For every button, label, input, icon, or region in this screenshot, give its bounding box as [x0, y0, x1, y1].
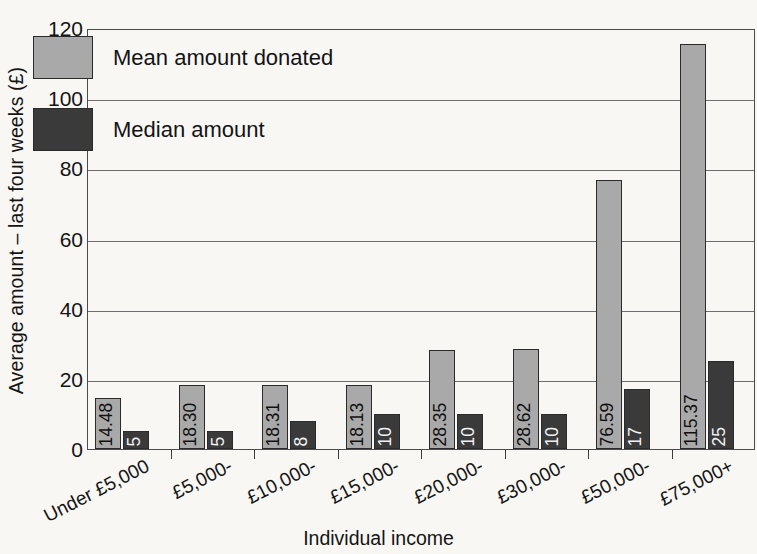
- bar-value-label: 18.31: [265, 402, 283, 446]
- x-category-label: £5,000-: [169, 455, 236, 504]
- bar-value-label: 10: [376, 427, 394, 446]
- bar-mean[interactable]: 18.31: [262, 385, 288, 449]
- bar-mean[interactable]: 28.35: [429, 350, 455, 449]
- bar-value-label: 76.59: [599, 402, 617, 446]
- y-axis-title: Average amount – last four weeks (£): [0, 0, 34, 460]
- bar-median[interactable]: 10: [541, 414, 567, 449]
- legend-item[interactable]: Median amount: [33, 108, 265, 151]
- bar-value-label: 28.62: [515, 402, 533, 446]
- bar-value-label: 10: [543, 427, 561, 446]
- bar-value-label: 28.35: [432, 402, 450, 446]
- bar-mean[interactable]: 18.30: [179, 385, 205, 449]
- bar-value-label: 18.13: [348, 402, 366, 446]
- bar-value-label: 8: [293, 436, 311, 446]
- legend-label: Mean amount donated: [113, 45, 333, 71]
- bar-median[interactable]: 25: [708, 361, 734, 449]
- gridline: [88, 170, 754, 171]
- bar-value-label: 25: [710, 427, 728, 446]
- x-category-label: £15,000-: [326, 455, 403, 509]
- bar-mean[interactable]: 115.37: [680, 44, 706, 449]
- bar-value-label: 18.30: [181, 402, 199, 446]
- x-category-label: £50,000-: [577, 455, 654, 509]
- bar-median[interactable]: 10: [457, 414, 483, 449]
- bar-median[interactable]: 17: [624, 389, 650, 449]
- bar-value-label: 115.37: [682, 394, 700, 446]
- bar-median[interactable]: 5: [123, 431, 149, 449]
- x-category-label: £10,000-: [243, 455, 320, 509]
- legend-swatch-mean: [33, 36, 93, 79]
- bar-value-label: 14.48: [98, 402, 116, 446]
- x-category-label: £30,000-: [493, 455, 570, 509]
- y-tick-label: 60: [35, 229, 83, 250]
- x-axis-category-labels: Under £5,000£5,000-£10,000-£15,000-£20,0…: [0, 455, 757, 525]
- bar-median[interactable]: 5: [207, 431, 233, 449]
- bar-mean[interactable]: 28.62: [513, 349, 539, 449]
- legend-swatch-median: [33, 108, 93, 151]
- legend: Mean amount donatedMedian amount: [33, 8, 453, 158]
- gridline: [88, 241, 754, 242]
- bar-chart-figure: Average amount – last four weeks (£) 020…: [0, 0, 757, 554]
- bar-mean[interactable]: 18.13: [346, 385, 372, 449]
- x-axis-title: Individual income: [0, 527, 757, 550]
- bar-value-label: 17: [627, 427, 645, 446]
- y-tick-label: 80: [35, 158, 83, 179]
- x-category-label: £75,000+: [656, 455, 737, 511]
- bar-value-label: 5: [209, 436, 227, 446]
- legend-label: Median amount: [113, 117, 265, 143]
- bar-mean[interactable]: 14.48: [95, 398, 121, 449]
- bar-median[interactable]: 10: [374, 414, 400, 449]
- bar-value-label: 10: [460, 427, 478, 446]
- y-axis-title-text: Average amount – last four weeks (£): [6, 66, 29, 393]
- gridline: [88, 311, 754, 312]
- x-category-label: Under £5,000: [40, 455, 153, 527]
- y-tick-label: 40: [35, 299, 83, 320]
- bar-mean[interactable]: 76.59: [596, 180, 622, 449]
- gridline: [88, 381, 754, 382]
- bar-median[interactable]: 8: [290, 421, 316, 449]
- bar-value-label: 5: [126, 436, 144, 446]
- y-tick-label: 20: [35, 369, 83, 390]
- legend-item[interactable]: Mean amount donated: [33, 36, 333, 79]
- x-category-label: £20,000-: [410, 455, 487, 509]
